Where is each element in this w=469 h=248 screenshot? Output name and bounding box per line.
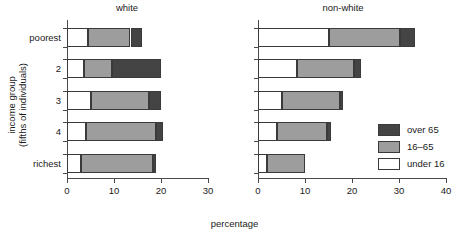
x-ticklabel-nonwhite-30: 30: [394, 185, 405, 196]
segment-16-65: [329, 28, 401, 47]
y-tick-nonwhite-1: [254, 47, 258, 48]
segment-under16: [67, 59, 84, 78]
category-tick-labels: poorest 2 3 4 richest: [18, 20, 64, 190]
x-tick-nonwhite-0: [258, 179, 259, 183]
segment-16-65: [297, 59, 354, 78]
category-label-3: 3: [56, 95, 61, 106]
x-tick-white-0: [67, 179, 68, 183]
x-axis-line-white: [67, 178, 209, 179]
segment-over65: [327, 122, 331, 141]
y-tick-white-9: [63, 173, 67, 174]
panel-title-white: white: [77, 2, 177, 13]
segment-16-65: [88, 28, 130, 47]
x-tick-nonwhite-10: [305, 179, 306, 183]
x-ticklabel-nonwhite-0: 0: [255, 185, 260, 196]
legend-swatch-over-65-icon: [378, 124, 400, 136]
x-ticklabel-white-30: 30: [203, 185, 214, 196]
category-label-2: 2: [56, 63, 61, 74]
x-ticklabel-white-0: 0: [64, 185, 69, 196]
category-label-4: 4: [56, 126, 61, 137]
segment-over65: [131, 28, 143, 47]
category-label-poorest: poorest: [29, 32, 61, 43]
legend-item-under-16: under 16: [378, 155, 445, 172]
segment-over65: [149, 91, 161, 110]
x-ticklabel-nonwhite-20: 20: [347, 185, 358, 196]
panel-title-non-white: non-white: [268, 2, 418, 13]
chart-figure: income group (fifths of individuals) poo…: [0, 0, 469, 248]
segment-16-65: [86, 122, 157, 141]
x-ticklabel-white-20: 20: [156, 185, 167, 196]
y-axis-label-line1: income group: [6, 63, 17, 147]
segment-16-65: [84, 59, 112, 78]
segment-16-65: [277, 122, 327, 141]
y-tick-white-1: [63, 47, 67, 48]
segment-16-65: [282, 91, 341, 110]
segment-16-65: [91, 91, 150, 110]
legend-swatch-under-16-icon: [378, 158, 400, 170]
segment-over65: [340, 91, 342, 110]
x-tick-nonwhite-30: [399, 179, 400, 183]
chart-legend: over 65 16–65 under 16: [378, 121, 445, 172]
segment-over65: [354, 59, 362, 78]
segment-16-65: [81, 154, 153, 173]
y-tick-nonwhite-7: [254, 141, 258, 142]
segment-under16: [258, 59, 297, 78]
y-tick-white-7: [63, 141, 67, 142]
legend-label-over-65: over 65: [407, 124, 439, 135]
y-tick-nonwhite-9: [254, 173, 258, 174]
segment-under16: [258, 91, 282, 110]
x-ticklabel-white-10: 10: [109, 185, 120, 196]
x-tick-nonwhite-40: [446, 179, 447, 183]
x-tick-white-20: [161, 179, 162, 183]
segment-over65: [400, 28, 415, 47]
legend-label-under-16: under 16: [407, 158, 445, 169]
y-tick-white-5: [63, 110, 67, 111]
x-ticklabel-nonwhite-10: 10: [300, 185, 311, 196]
legend-label-16-65: 16–65: [407, 141, 433, 152]
legend-item-16-65: 16–65: [378, 138, 445, 155]
x-tick-white-10: [114, 179, 115, 183]
category-label-richest: richest: [33, 158, 61, 169]
segment-over65: [112, 59, 161, 78]
legend-item-over-65: over 65: [378, 121, 445, 138]
segment-under16: [258, 154, 267, 173]
segment-over65: [156, 122, 163, 141]
segment-under16: [67, 154, 81, 173]
y-tick-nonwhite-5: [254, 110, 258, 111]
segment-under16: [67, 28, 88, 47]
x-tick-nonwhite-20: [352, 179, 353, 183]
segment-under16: [258, 122, 277, 141]
segment-16-65: [267, 154, 306, 173]
x-tick-white-30: [208, 179, 209, 183]
segment-under16: [67, 91, 91, 110]
legend-swatch-16-65-icon: [378, 141, 400, 153]
segment-over65: [153, 154, 156, 173]
x-ticklabel-nonwhite-40: 40: [441, 185, 452, 196]
y-tick-nonwhite-3: [254, 78, 258, 79]
x-axis-label: percentage: [0, 218, 469, 229]
y-tick-white-3: [63, 78, 67, 79]
segment-under16: [258, 28, 329, 47]
panel-white: white 0 10 20 30: [67, 20, 209, 190]
segment-under16: [67, 122, 86, 141]
